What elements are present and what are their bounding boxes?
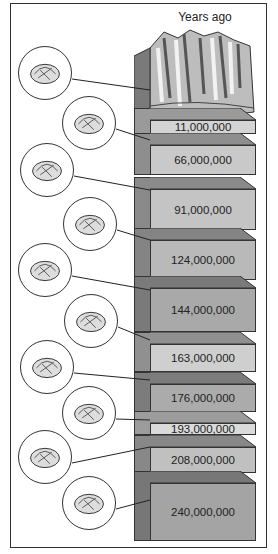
strata-layer: 11,000,000 bbox=[134, 108, 256, 134]
crinoid-fossil bbox=[18, 430, 72, 484]
strata-layer: 193,000,000 bbox=[134, 411, 256, 435]
layer-age-label: 11,000,000 bbox=[150, 120, 256, 134]
layer-age-label: 208,000,000 bbox=[150, 447, 256, 473]
layer-age-label: 144,000,000 bbox=[150, 288, 256, 332]
strata-layer: 144,000,000 bbox=[134, 276, 256, 332]
layer-age-label: 240,000,000 bbox=[150, 483, 256, 541]
strata-layer: 240,000,000 bbox=[134, 471, 256, 541]
layer-age-label: 176,000,000 bbox=[150, 384, 256, 412]
layer-age-label: 66,000,000 bbox=[150, 145, 256, 175]
starfish-fossil bbox=[64, 294, 118, 348]
nautilus-fossil bbox=[63, 197, 117, 251]
strata-layer: 163,000,000 bbox=[134, 332, 256, 372]
brachiopod-fossil bbox=[20, 340, 74, 394]
layer-age-label: 193,000,000 bbox=[150, 423, 256, 435]
belemnite-fossil bbox=[18, 243, 72, 297]
strata-layer: 91,000,000 bbox=[134, 177, 256, 230]
gastropod-fossil bbox=[62, 476, 116, 530]
layer-age-label: 91,000,000 bbox=[150, 189, 256, 230]
strata-layer: 66,000,000 bbox=[134, 133, 256, 175]
strata-layer: 208,000,000 bbox=[134, 435, 256, 473]
sea-urchin-fossil bbox=[20, 143, 74, 197]
years-ago-heading: Years ago bbox=[150, 10, 260, 24]
ammonite-fossil bbox=[18, 46, 72, 100]
layer-age-label: 163,000,000 bbox=[150, 344, 256, 372]
strata-layer: 176,000,000 bbox=[134, 372, 256, 412]
layer-age-label: 124,000,000 bbox=[150, 240, 256, 280]
strata-layer: 124,000,000 bbox=[134, 228, 256, 280]
coral-fossil bbox=[62, 96, 116, 150]
